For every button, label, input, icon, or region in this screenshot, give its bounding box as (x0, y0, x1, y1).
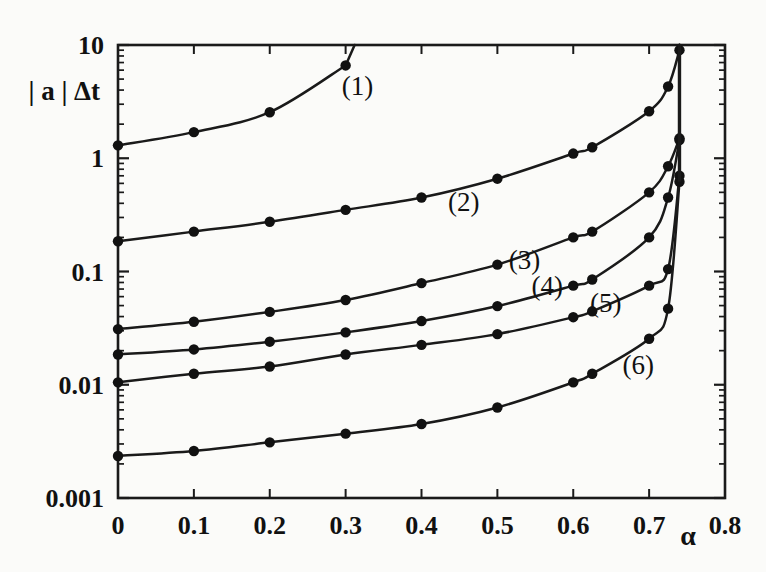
plot-frame (118, 45, 725, 498)
series-1: (1) (113, 45, 374, 151)
data-point (189, 127, 199, 137)
data-point (265, 107, 275, 117)
x-tick-label: 0.4 (405, 511, 438, 540)
series-2: (2) (113, 45, 685, 246)
x-tick-label: 0.2 (254, 511, 287, 540)
data-point (663, 303, 673, 313)
data-point (113, 377, 123, 387)
data-point (340, 349, 350, 359)
data-point (265, 361, 275, 371)
x-axis-label: α (680, 520, 696, 551)
data-point (644, 334, 654, 344)
data-point (663, 81, 673, 91)
data-point (340, 60, 350, 70)
data-point (663, 161, 673, 171)
data-point (340, 327, 350, 337)
series-label: (6) (623, 350, 654, 380)
data-point (113, 140, 123, 150)
data-point (492, 402, 502, 412)
figure-container: 00.10.20.30.40.50.60.70.81010.10.010.001… (0, 0, 766, 572)
data-point (265, 217, 275, 227)
data-point (568, 280, 578, 290)
data-point (189, 226, 199, 236)
data-point (492, 329, 502, 339)
data-point (189, 369, 199, 379)
y-tick-label: 0.1 (72, 258, 105, 287)
data-point (113, 324, 123, 334)
data-point (113, 236, 123, 246)
data-point (189, 446, 199, 456)
data-point (113, 349, 123, 359)
data-point (265, 437, 275, 447)
data-point (416, 192, 426, 202)
data-point (644, 106, 654, 116)
data-point (644, 187, 654, 197)
data-point (416, 316, 426, 326)
data-point (189, 317, 199, 327)
curve-line (118, 182, 679, 456)
data-point (265, 336, 275, 346)
y-tick-label: 0.001 (46, 484, 105, 513)
data-point (568, 148, 578, 158)
y-tick-label: 0.01 (59, 371, 105, 400)
series-label: (2) (448, 187, 479, 217)
data-point (113, 451, 123, 461)
series-6: (6) (113, 45, 685, 461)
data-point (587, 142, 597, 152)
x-tick-label: 0.6 (557, 511, 590, 540)
data-point (587, 369, 597, 379)
data-point (416, 278, 426, 288)
data-point (644, 280, 654, 290)
data-point (644, 232, 654, 242)
series-label: (5) (590, 288, 621, 318)
data-point (568, 232, 578, 242)
chart-svg: 00.10.20.30.40.50.60.70.81010.10.010.001… (0, 0, 766, 572)
x-tick-label: 0.5 (481, 511, 514, 540)
series-5: (5) (113, 45, 685, 388)
x-tick-label: 0.1 (178, 511, 211, 540)
data-point (492, 259, 502, 269)
x-tick-label: 0 (112, 511, 125, 540)
data-point (587, 274, 597, 284)
curve-line (118, 140, 679, 355)
data-point (416, 340, 426, 350)
data-point (416, 419, 426, 429)
y-tick-label: 10 (78, 31, 104, 60)
data-point (189, 344, 199, 354)
series-label: (1) (342, 71, 373, 101)
curve-line (118, 65, 346, 145)
x-tick-label: 0.8 (709, 511, 742, 540)
data-point (265, 307, 275, 317)
data-point (568, 312, 578, 322)
series-label: (4) (532, 271, 563, 301)
data-point (340, 428, 350, 438)
data-point (340, 295, 350, 305)
y-tick-label: 1 (91, 144, 104, 173)
data-point (587, 226, 597, 236)
data-point (492, 301, 502, 311)
y-axis-label: | a | Δt (28, 76, 100, 106)
data-point (568, 377, 578, 387)
data-point (492, 173, 502, 183)
data-point (663, 192, 673, 202)
x-tick-label: 0.3 (329, 511, 362, 540)
x-tick-label: 0.7 (633, 511, 666, 540)
data-point (340, 205, 350, 215)
